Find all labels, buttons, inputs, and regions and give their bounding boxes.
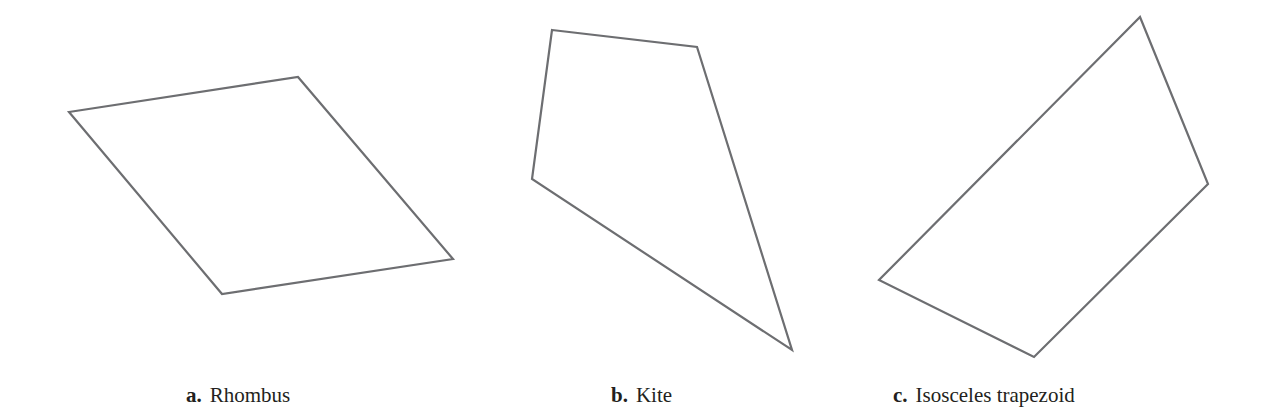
caption-label: Kite: [636, 383, 672, 407]
kite-shape: [532, 30, 792, 350]
caption-label: Isosceles trapezoid: [916, 383, 1075, 407]
caption-letter: c.: [893, 383, 908, 407]
caption-kite: b.Kite: [611, 383, 672, 408]
quadrilaterals-figure: a.Rhombus b.Kite c.Isosceles trapezoid: [0, 0, 1270, 420]
caption-letter: b.: [611, 383, 628, 407]
caption-letter: a.: [186, 383, 202, 407]
caption-isosceles-trapezoid: c.Isosceles trapezoid: [893, 383, 1075, 408]
rhombus-shape: [69, 77, 453, 294]
isosceles-trapezoid-shape: [879, 17, 1208, 357]
caption-rhombus: a.Rhombus: [186, 383, 290, 408]
shapes-svg: [0, 0, 1270, 420]
caption-label: Rhombus: [210, 383, 291, 407]
